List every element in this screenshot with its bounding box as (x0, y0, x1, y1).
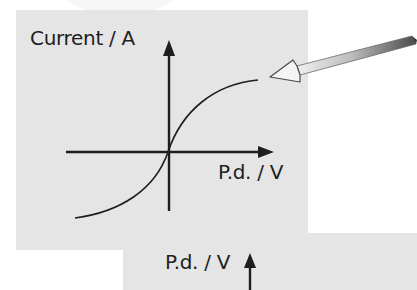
iv-curve (75, 80, 258, 218)
figure-stage: Current / A P.d. / V P.d. / V (0, 0, 417, 290)
bottom-y-axis-arrowhead-icon (244, 253, 256, 268)
y-axis (163, 40, 175, 211)
y-axis-arrowhead-icon (163, 40, 175, 56)
bottom-y-axis (244, 253, 256, 290)
graph-drawing (0, 0, 417, 290)
x-axis-arrowhead-icon (258, 146, 274, 158)
pointer-arrow-icon (270, 36, 417, 82)
